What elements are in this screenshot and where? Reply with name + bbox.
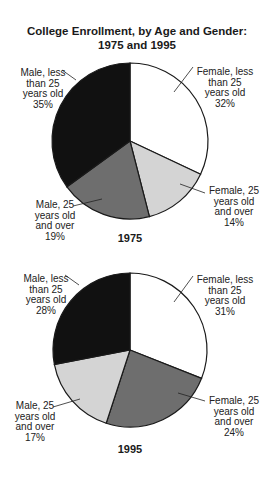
label-1995-male-25-plus: Male, 25years old and over17%: [10, 401, 60, 443]
label-1975-female-under-25: Female, lessthan 25 years old32%: [186, 67, 264, 109]
label-1975-female-25-plus: Female, 25years old and over14%: [200, 186, 268, 228]
year-label-1995: 1995: [100, 443, 160, 455]
label-1995-female-25-plus: Female, 25years old and over24%: [200, 396, 268, 438]
label-1995-female-under-25: Female, lessthan 25 years old31%: [186, 275, 264, 317]
label-1995-male-under-25: Male, lessthan 25 years old28%: [12, 274, 80, 316]
label-1975-male-under-25: Male, lessthan 25 years old35%: [8, 68, 78, 110]
year-label-1975: 1975: [100, 232, 160, 244]
label-1975-male-25-plus: Male, 25years old and over19%: [30, 200, 80, 242]
